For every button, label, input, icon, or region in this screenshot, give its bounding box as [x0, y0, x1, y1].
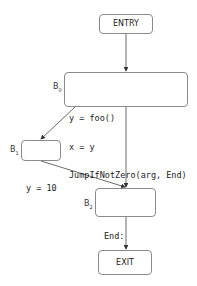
b2-line-1: End:	[104, 232, 147, 242]
b1-node: y = 10	[21, 140, 61, 161]
exit-node: EXIT	[98, 250, 152, 275]
b0-line-3: JumpIfNotZero(arg, End)	[69, 171, 183, 181]
entry-text: ENTRY	[113, 19, 139, 29]
b1-label: B1	[10, 145, 19, 156]
entry-node: ENTRY	[99, 14, 153, 34]
b0-node: y = foo() x = y JumpIfNotZero(arg, End)	[64, 72, 188, 107]
b2-label: B2	[84, 199, 93, 210]
b0-label: B0	[53, 82, 62, 93]
b2-node: End: Return(x)	[95, 188, 156, 217]
exit-text: EXIT	[116, 258, 134, 268]
b1-line-1: y = 10	[26, 184, 56, 194]
b0-line-1: y = foo()	[69, 114, 183, 124]
b0-line-2: x = y	[69, 143, 183, 153]
